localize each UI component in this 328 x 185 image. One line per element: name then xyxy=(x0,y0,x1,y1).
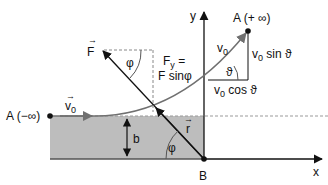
label-r-vector: r xyxy=(186,122,190,136)
label-x-axis: x xyxy=(313,165,319,179)
label-phi-bottom: φ xyxy=(168,141,176,155)
label-fy: Fy = xyxy=(163,54,185,70)
label-a-minus: A (−∞) xyxy=(6,109,40,123)
point-b xyxy=(201,156,207,162)
label-force: F xyxy=(87,45,94,59)
vec-arrow-f: → xyxy=(88,35,97,45)
label-theta: ϑ xyxy=(226,65,233,79)
label-v0-final: v0 xyxy=(217,41,228,57)
theta-arc xyxy=(234,66,238,80)
label-v0-incoming: v0 xyxy=(65,99,76,115)
point-a-plus xyxy=(245,28,251,34)
label-impact-parameter: b xyxy=(133,132,140,146)
label-y-axis: y xyxy=(190,9,196,23)
label-f-sin-phi: F sinφ xyxy=(158,69,192,83)
point-a-minus xyxy=(47,113,53,119)
label-a-plus: A (+ ∞) xyxy=(233,11,271,25)
scattering-diagram: A (−∞) A (+ ∞) B x y → v0 → F φ Fy = F s… xyxy=(0,0,328,185)
label-v0-cos-theta: v0 cos ϑ xyxy=(214,83,257,99)
label-phi-top: φ xyxy=(126,56,134,70)
label-b: B xyxy=(199,169,207,183)
label-v0-sin-theta: v0 sin ϑ xyxy=(252,47,292,63)
